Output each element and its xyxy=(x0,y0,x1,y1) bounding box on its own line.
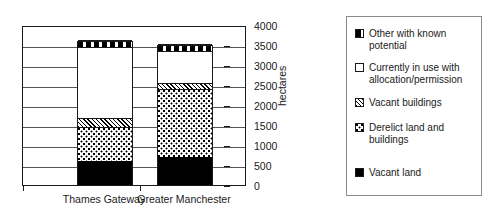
bar-segment-other-with-known-potential xyxy=(158,45,212,51)
y-axis-tick xyxy=(224,126,230,127)
bar-top-edge xyxy=(78,40,132,41)
white-swatch-icon xyxy=(355,63,364,72)
dash-swatch-icon xyxy=(355,29,364,38)
bar-segment-other-with-known-potential xyxy=(78,41,132,47)
bar-thames-gateway[interactable] xyxy=(77,41,133,185)
legend-label: Currently in use with allocation/permiss… xyxy=(369,62,481,85)
plot-area xyxy=(22,26,246,186)
bar-segment-derelict-land-and-buildings xyxy=(78,127,132,161)
stacked-bar-chart: hectares Other with known potential Curr… xyxy=(0,0,492,213)
legend-label: Vacant land xyxy=(369,167,481,179)
y-axis-tick xyxy=(224,186,230,187)
y-axis-tick xyxy=(224,46,230,47)
legend-item-other-with-known-potential[interactable]: Other with known potential xyxy=(355,28,481,51)
bar-greater-manchester[interactable] xyxy=(157,45,213,185)
y-axis-tick xyxy=(224,26,230,27)
y-axis-tick xyxy=(224,86,230,87)
bar-segment-currently-in-use-with-allocation-permission xyxy=(158,51,212,83)
legend-item-vacant-buildings[interactable]: Vacant buildings xyxy=(355,97,481,109)
y-axis-tick xyxy=(224,166,230,167)
bar-segment-vacant-buildings xyxy=(158,83,212,89)
y-axis-tick-label: 3500 xyxy=(254,41,277,52)
legend-label: Derelict land and buildings xyxy=(369,122,481,145)
legend-label: Vacant buildings xyxy=(369,97,481,109)
y-axis-tick xyxy=(224,106,230,107)
x-axis-separator-tick xyxy=(140,186,141,191)
legend-item-vacant-land[interactable]: Vacant land xyxy=(355,167,481,179)
legend-label: Other with known potential xyxy=(369,28,481,51)
black-swatch-icon xyxy=(355,168,364,177)
bar-segment-vacant-buildings xyxy=(78,118,132,127)
y-axis-tick-label: 2500 xyxy=(254,81,277,92)
bar-top-edge xyxy=(158,44,212,45)
legend-item-derelict-land-and-buildings[interactable]: Derelict land and buildings xyxy=(355,122,481,145)
legend: Other with known potential Currently in … xyxy=(346,16,482,196)
dots-swatch-icon xyxy=(355,123,364,132)
y-axis-title: hectares xyxy=(276,66,288,106)
legend-item-currently-in-use[interactable]: Currently in use with allocation/permiss… xyxy=(355,62,481,85)
bar-segment-currently-in-use-with-allocation-permission xyxy=(78,47,132,118)
y-axis-tick-label: 2000 xyxy=(254,101,277,112)
y-axis-tick xyxy=(224,66,230,67)
y-axis-tick-label: 1500 xyxy=(254,121,277,132)
x-axis-start-tick xyxy=(23,186,24,191)
x-axis-category-label: Greater Manchester xyxy=(134,193,234,205)
bar-segment-vacant-land xyxy=(158,157,212,185)
y-axis-tick-label: 0 xyxy=(254,181,260,192)
y-axis-tick-label: 500 xyxy=(254,161,272,172)
y-axis-tick-label: 1000 xyxy=(254,141,277,152)
bar-segment-derelict-land-and-buildings xyxy=(158,89,212,157)
y-axis-tick-label: 3000 xyxy=(254,61,277,72)
hatch-swatch-icon xyxy=(355,98,364,107)
y-axis-tick-label: 4000 xyxy=(254,21,277,32)
y-axis-tick xyxy=(224,146,230,147)
bar-segment-vacant-land xyxy=(78,161,132,185)
